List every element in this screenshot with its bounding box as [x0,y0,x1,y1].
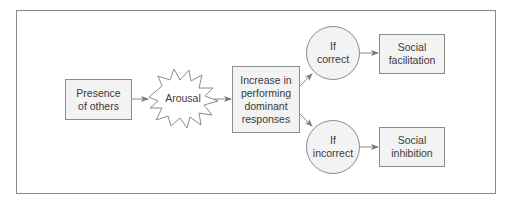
node-presence-of-others: Presence of others [65,79,132,120]
node-if-incorrect: If incorrect [306,120,360,174]
node-label: Presence of others [76,87,120,113]
node-arousal: Arousal [158,92,208,104]
node-label: Social facilitation [389,41,436,67]
node-label: Arousal [165,92,201,104]
node-label: If incorrect [313,134,353,160]
node-if-correct: If correct [306,26,360,80]
node-social-inhibition: Social inhibition [379,127,445,167]
node-label: If correct [317,40,349,66]
node-label: Social inhibition [391,134,432,160]
node-label: Increase in performing dominant response… [240,74,291,126]
node-social-facilitation: Social facilitation [379,34,445,74]
node-increase-dominant-responses: Increase in performing dominant response… [232,66,300,133]
